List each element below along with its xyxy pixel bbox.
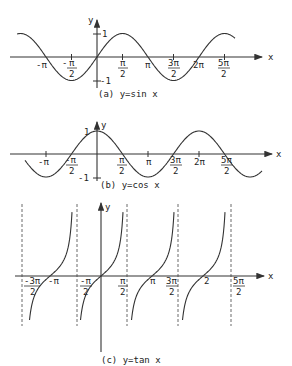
svg-text:π: π xyxy=(120,58,126,68)
svg-text:5π: 5π xyxy=(218,58,229,68)
svg-text:2π: 2π xyxy=(193,60,204,70)
panel-sin: x y 1 -1 -π - π 2 π 2 π 3π 2 2π 5π xyxy=(10,15,274,99)
x-ticks: -π - π 2 π 2 π 3π 2 2π 5π 2 xyxy=(36,54,230,79)
asymptotes xyxy=(22,204,231,326)
caption-b: (b) y=cos x xyxy=(100,180,160,190)
svg-text:π: π xyxy=(145,60,151,70)
svg-text:2: 2 xyxy=(120,287,125,297)
svg-text:π: π xyxy=(146,157,152,167)
svg-text:3π: 3π xyxy=(166,276,177,286)
svg-text:2π: 2π xyxy=(194,157,205,167)
y-tick-neg1: -1 xyxy=(100,76,111,86)
svg-text:2: 2 xyxy=(69,166,74,176)
svg-text:2: 2 xyxy=(221,69,226,79)
y-tick-neg1: -1 xyxy=(78,173,89,183)
svg-text:-π: -π xyxy=(36,60,47,70)
svg-text:2: 2 xyxy=(169,287,174,297)
svg-text:2: 2 xyxy=(69,69,74,79)
svg-text:2: 2 xyxy=(173,166,178,176)
x-axis-label: x xyxy=(276,149,282,159)
svg-text:2: 2 xyxy=(236,287,241,297)
y-axis-label: y xyxy=(101,120,107,130)
svg-text:π: π xyxy=(120,276,126,286)
x-axis-label: x xyxy=(268,52,274,62)
svg-text:-π: -π xyxy=(80,276,91,286)
svg-text:2: 2 xyxy=(119,166,124,176)
svg-text:-: - xyxy=(62,58,67,68)
y-axis-label: y xyxy=(88,15,94,25)
svg-text:3π: 3π xyxy=(168,58,179,68)
svg-text:π: π xyxy=(69,58,75,68)
caption-c: (c) y=tan x xyxy=(101,355,161,365)
svg-text:2: 2 xyxy=(120,69,125,79)
y-axis-label: y xyxy=(105,202,111,212)
panel-cos: x y 1 -1 -π -π 2 π 2 π 3π 2 2π 5π 2 (b) … xyxy=(10,120,282,190)
x-ticks: -π -π 2 π 2 π 3π 2 2π 5π 2 xyxy=(38,151,233,176)
y-tick-1: 1 xyxy=(102,29,107,39)
x-ticks: -3π 2 -π -π 2 π 2 π 3π 2 2 5π 2 xyxy=(24,276,245,297)
svg-text:2: 2 xyxy=(204,276,209,286)
svg-text:2: 2 xyxy=(171,69,176,79)
panel-tan: x y -3π 2 -π -π 2 π 2 π 3π 2 2 5π xyxy=(15,202,274,365)
svg-text:-π: -π xyxy=(38,157,49,167)
svg-text:2: 2 xyxy=(224,166,229,176)
caption-a: (a) y=sin x xyxy=(98,89,158,99)
x-axis-label: x xyxy=(268,271,274,281)
svg-text:5π: 5π xyxy=(233,276,244,286)
svg-text:-3π: -3π xyxy=(24,276,41,286)
trig-function-figure: x y 1 -1 -π - π 2 π 2 π 3π 2 2π 5π xyxy=(0,0,292,366)
svg-text:-π: -π xyxy=(48,276,59,286)
